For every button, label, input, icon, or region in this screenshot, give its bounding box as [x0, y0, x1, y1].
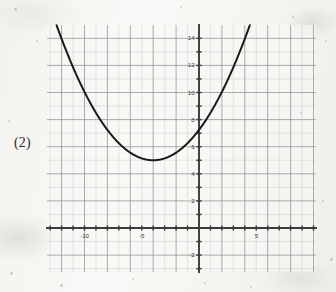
- y-axis-tick-label: 8: [186, 116, 195, 122]
- y-axis-tick-label: 14: [186, 35, 195, 41]
- y-axis-tick-label: 2: [186, 198, 195, 204]
- graph-figure: [0, 0, 336, 292]
- y-axis-tick-label: -2: [186, 252, 195, 258]
- y-axis-tick-label: 6: [186, 144, 195, 150]
- x-axis-tick-label: 5: [255, 233, 258, 239]
- x-axis-tick-label: -10: [80, 233, 89, 239]
- problem-number-label: (2): [14, 136, 31, 150]
- x-axis-tick-label: -5: [139, 233, 144, 239]
- y-axis-tick-label: 10: [186, 89, 195, 95]
- y-axis-tick-label: 12: [186, 62, 195, 68]
- y-axis-tick-label: 4: [186, 171, 195, 177]
